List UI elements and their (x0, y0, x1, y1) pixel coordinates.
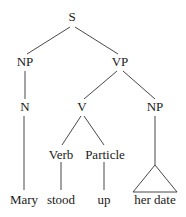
triangle-icon (133, 165, 177, 192)
edge-v-verb (62, 116, 81, 145)
node-np-object: NP (147, 100, 164, 114)
edge-v-particle (84, 116, 104, 145)
edge-vp-v (84, 71, 117, 99)
node-v: V (77, 100, 86, 114)
node-np-subject: NP (17, 55, 34, 69)
leaf-up: up (98, 193, 111, 207)
leaf-mary: Mary (10, 193, 38, 207)
node-n: N (20, 100, 29, 114)
leaf-her-date: her date (134, 193, 176, 207)
edge-vp-np (123, 71, 155, 99)
edge-s-vp (75, 27, 118, 54)
node-particle: Particle (85, 148, 125, 162)
node-s: S (68, 10, 75, 24)
node-vp: VP (112, 55, 129, 69)
edge-s-np (27, 27, 70, 54)
node-verb: Verb (49, 148, 74, 162)
leaf-stood: stood (47, 193, 75, 207)
